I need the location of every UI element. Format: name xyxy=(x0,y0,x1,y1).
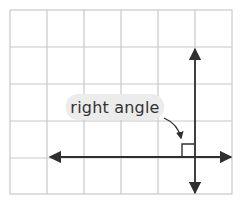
diagram: right angle xyxy=(0,0,244,207)
right-angle-marker xyxy=(182,144,195,157)
label-text: right angle xyxy=(70,98,159,117)
right-angle-label: right angle xyxy=(66,94,164,120)
